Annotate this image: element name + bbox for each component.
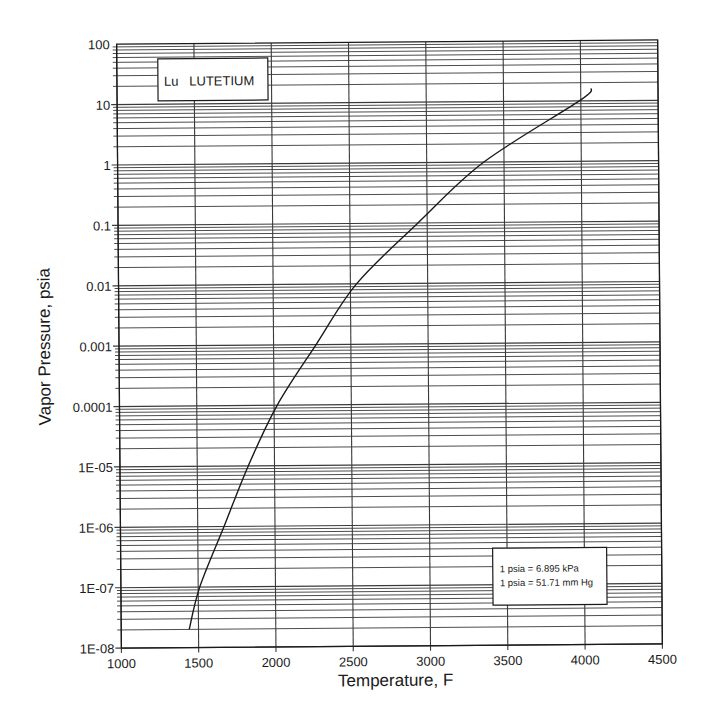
x-tick-label: 4500: [648, 652, 677, 667]
element-label-box: Lu LUTETIUM: [158, 58, 268, 101]
x-tick-label: 4000: [571, 652, 600, 667]
x-axis-title: Temperature, F: [338, 671, 453, 691]
y-tick-label: 1E-08: [80, 641, 115, 656]
vapor-pressure-chart: 1E-081E-071E-061E-050.00010.0010.010.111…: [0, 0, 713, 724]
conversion-mmhg: 1 psia = 51.71 mm Hg: [500, 576, 593, 588]
y-tick-label: 0.01: [86, 279, 111, 294]
x-axis-ticks: 10001500200025003000350040004500: [107, 652, 677, 671]
y-tick-label: 1E-07: [79, 581, 114, 596]
conversion-kpa: 1 psia = 6.895 kPa: [500, 563, 580, 575]
x-tick-label: 1500: [184, 655, 213, 670]
y-tick-label: 1E-05: [78, 460, 113, 475]
y-tick-label: 0.1: [93, 218, 111, 233]
x-tick-label: 3000: [416, 654, 445, 669]
y-tick-label: 100: [88, 37, 110, 52]
x-tick-label: 2500: [339, 654, 368, 669]
x-tick-label: 1000: [107, 656, 136, 671]
conversion-note-box: 1 psia = 6.895 kPa 1 psia = 51.71 mm Hg: [493, 547, 607, 605]
element-label: Lu LUTETIUM: [164, 73, 254, 89]
y-axis-title: Vapor Pressure, psia: [34, 267, 54, 425]
y-tick-label: 0.0001: [73, 400, 113, 415]
y-tick-label: 0.001: [79, 339, 112, 354]
y-tick-label: 10: [96, 98, 111, 113]
x-tick-label: 2000: [262, 655, 291, 670]
x-tick-label: 3500: [493, 653, 522, 668]
y-axis-ticks: 1E-081E-071E-061E-050.00010.0010.010.111…: [70, 37, 115, 656]
y-tick-label: 1E-06: [79, 520, 114, 535]
y-tick-label: 1: [103, 158, 110, 173]
